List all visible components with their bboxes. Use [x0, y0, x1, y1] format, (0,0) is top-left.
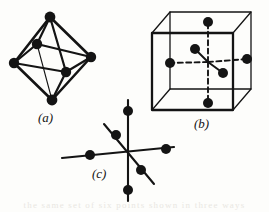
vertex-dot: [32, 39, 42, 49]
axis-dot: [123, 185, 133, 195]
octahedron-inner-edges: [14, 17, 91, 100]
face-dot: [242, 54, 252, 64]
axis-dot: [123, 106, 133, 116]
axis-dot: [136, 165, 146, 175]
figure-c-axes-star: [62, 100, 174, 201]
vertex-dot: [61, 67, 71, 77]
figure-b-cube: [152, 12, 252, 110]
figure-plate: (a) (b) (c) the same set of six points s…: [0, 0, 269, 212]
face-dot: [165, 58, 175, 68]
face-dot: [190, 44, 200, 54]
face-dot: [203, 98, 213, 108]
face-dot: [218, 68, 228, 78]
axis-dot: [85, 150, 95, 160]
axis-horizontal: [62, 147, 174, 158]
vertex-dot: [47, 95, 58, 106]
vertex-dot: [86, 52, 96, 62]
figure-a-octahedron: [9, 12, 96, 106]
figure-canvas: [0, 0, 269, 212]
axis-dot: [161, 144, 171, 154]
face-dot: [203, 17, 213, 27]
vertex-dot: [45, 12, 56, 23]
star-axis-lines: [62, 100, 174, 201]
axis-dot: [111, 130, 121, 140]
vertex-dot: [9, 58, 19, 68]
